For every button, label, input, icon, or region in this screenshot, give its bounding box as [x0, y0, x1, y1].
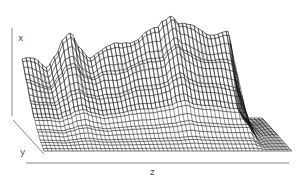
x-axis-label: x [18, 33, 24, 43]
z-axis-label: z [150, 167, 155, 177]
surface-mesh [22, 16, 292, 151]
mesh-column-line [38, 61, 61, 151]
mesh-curtain-line [190, 25, 205, 106]
mesh-curtain-line [126, 43, 140, 110]
mesh-curtain-line [182, 23, 197, 104]
mesh-curtain-line [142, 36, 156, 109]
mesh-column-line [82, 50, 106, 151]
mesh-curtain-line [86, 55, 99, 114]
surface-plot: x y z [0, 0, 304, 182]
mesh-curtain-line [178, 23, 193, 104]
mesh-curtain-line [122, 43, 136, 110]
mesh-curtain-line [214, 35, 230, 108]
mesh-curtain-line [118, 43, 132, 111]
mesh-column-line [178, 23, 205, 151]
y-axis-label: y [20, 147, 26, 157]
mesh-curtain-line [186, 24, 201, 106]
mesh-curtain-line [210, 35, 226, 108]
mesh-curtain-line [174, 18, 189, 101]
